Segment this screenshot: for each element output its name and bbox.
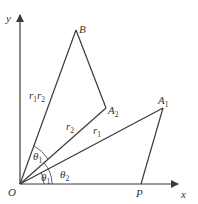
segment-OB: [20, 30, 76, 184]
point-P-label: P: [135, 187, 143, 199]
point-B-label: B: [79, 23, 86, 35]
point-A1-label: A1: [157, 94, 169, 109]
angle-theta2-label: θ2: [60, 168, 69, 183]
y-axis-label: y: [5, 12, 11, 24]
segment-OA2-label: r2: [66, 120, 74, 135]
segment-OA1-label: r1: [93, 124, 101, 139]
segment-BA2: [76, 30, 106, 108]
segment-A1P: [141, 108, 163, 184]
point-A2-label: A2: [107, 104, 119, 119]
x-axis-label: x: [180, 188, 186, 200]
angle-upper-theta1-label: θ1: [33, 150, 42, 165]
segment-OB-label: r1r2: [29, 89, 45, 104]
origin-label: O: [8, 186, 16, 198]
diagram-canvas: y x O B A2 A1 P r1r2 r2 r1 θ1 θ1 θ2: [0, 0, 198, 204]
